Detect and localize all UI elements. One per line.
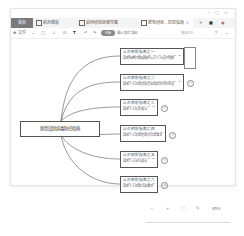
undo-icon[interactable]: ↶ [84, 28, 87, 38]
ribbon-tabs[interactable]: 插入 样式 导出 [117, 28, 137, 38]
mindmap-canvas[interactable]: 新型冠状病毒防控指南 公众预防指南之一 居家隔离时需要做的公众个人防护措施 公众… [11, 39, 235, 185]
node-desc: 居家隔离时需要做的公众个人防护措施 [123, 55, 181, 61]
subtopic-node-4[interactable]: 公众预防指南之四 居家个人及家庭成员日常清洁 [120, 125, 166, 142]
apps-icon[interactable]: ■ [209, 18, 213, 28]
note-badge-icon[interactable]: ② [187, 80, 194, 87]
node-title: 公众预防指南之三 [123, 101, 155, 106]
toolbar: ≡ 文件 ⌄ ▢ ⊥ ⊡ T ↶ ↷ 开始 插入 样式 导出 查找命令 ? ⌄ [11, 28, 235, 39]
zoom-percent[interactable]: 85% [212, 206, 221, 211]
app-window: − □ × 首页 稻壳模板 如何绘制思维导图 新型冠状...防控指南× + ■ … [10, 8, 236, 186]
node-desc: 居家个人及家庭成员出现症状时的处置 [123, 81, 181, 87]
fit-screen-icon[interactable]: ⛶ [182, 206, 185, 211]
export-icon[interactable]: ⊡ [63, 28, 66, 38]
tab-label: 新型冠状...防控指南 [148, 20, 184, 25]
horizontal-scrollbar[interactable] [146, 222, 230, 223]
mindmap-file-icon [141, 20, 147, 26]
subtopic-node-5[interactable]: 公众预防指南之五 居家个人出行要点 [120, 151, 158, 168]
format-painter-icon[interactable]: T [73, 28, 76, 38]
mindmap-file-icon [79, 20, 85, 26]
note-badge-icon[interactable]: ⑤ [161, 157, 168, 164]
node-desc: 居家个人及家庭成员日常清洁 [123, 132, 163, 138]
tab-home[interactable]: 首页 [11, 18, 33, 28]
node-title: 公众预防指南之五 [123, 153, 155, 158]
save-icon[interactable]: ▢ [41, 28, 45, 38]
command-search[interactable]: 查找命令 [181, 28, 193, 38]
print-icon[interactable]: ⊥ [52, 28, 55, 38]
redo-icon[interactable]: ↷ [93, 28, 96, 38]
file-chevron-icon[interactable]: ⌄ [31, 28, 34, 38]
new-tab-button[interactable]: + [199, 18, 202, 28]
help-icon[interactable]: ? [215, 28, 217, 38]
node-title: 公众预防指南之六 [123, 178, 155, 183]
close-window-button[interactable]: × [224, 10, 227, 15]
zoom-in-button[interactable]: + [166, 206, 169, 211]
start-tab-button[interactable]: 开始 [101, 30, 115, 36]
subtopic-node-6[interactable]: 公众预防指南之六 居家个人就医注意事项 [120, 176, 158, 193]
template-icon [36, 20, 42, 26]
selection-frame [184, 47, 196, 69]
minimize-button[interactable]: − [207, 10, 210, 15]
tab-how-to-mindmap[interactable]: 如何绘制思维导图 [79, 18, 139, 28]
tab-label: 稻壳模板 [43, 20, 59, 25]
tab-covid-guide[interactable]: 新型冠状...防控指南× [141, 18, 193, 28]
tab-templates[interactable]: 稻壳模板 [36, 18, 76, 28]
close-tab-icon[interactable]: × [186, 20, 189, 25]
search-icon[interactable]: 🔍 [196, 206, 200, 210]
root-node[interactable]: 新型冠状病毒防控指南 [20, 121, 100, 137]
node-desc: 居家个人就医注意事项 [123, 183, 155, 189]
maximize-button[interactable]: □ [215, 10, 219, 15]
note-badge-icon[interactable]: ④ [169, 132, 176, 139]
node-desc: 居家个人防护要点 [123, 106, 155, 112]
title-bar: − □ × [11, 9, 235, 18]
file-menu[interactable]: ≡ 文件 [13, 28, 26, 38]
subtopic-node-2[interactable]: 公众预防指南之二 居家个人及家庭成员出现症状时的处置 [120, 74, 184, 91]
subtopic-node-3[interactable]: 公众预防指南之三 居家个人防护要点 [120, 99, 158, 116]
subtopic-node-1[interactable]: 公众预防指南之一 居家隔离时需要做的公众个人防护措施 [120, 48, 184, 65]
tab-bar: 首页 稻壳模板 如何绘制思维导图 新型冠状...防控指南× + ■ ◉ [11, 18, 235, 28]
collapse-ribbon-icon[interactable]: ⌄ [225, 28, 228, 38]
note-badge-icon[interactable]: ⑥ [161, 182, 168, 189]
user-avatar-icon[interactable]: ◉ [221, 18, 225, 28]
zoom-out-button[interactable]: − [150, 206, 153, 211]
node-desc: 居家个人出行要点 [123, 158, 155, 164]
tab-label: 如何绘制思维导图 [86, 20, 118, 25]
zoom-controls: − + ⛶ 🔍 85% [146, 204, 226, 214]
note-badge-icon[interactable]: ③ [161, 105, 168, 112]
